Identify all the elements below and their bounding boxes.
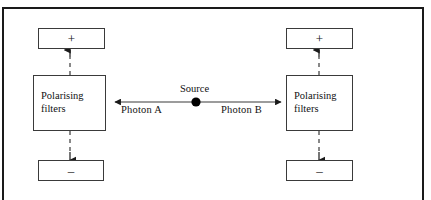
left-minus-label: – bbox=[68, 164, 75, 177]
right-filter-label-line2: filters bbox=[294, 103, 337, 116]
right-filter-label-group: Polarising filters bbox=[294, 90, 337, 116]
left-plus-detector-box[interactable]: + bbox=[38, 28, 105, 49]
left-filter-label-line1: Polarising bbox=[41, 90, 84, 103]
right-polarising-filter-box[interactable]: Polarising filters bbox=[286, 75, 353, 131]
left-plus-label: + bbox=[68, 32, 75, 45]
right-minus-detector-box[interactable]: – bbox=[286, 160, 353, 181]
left-minus-detector-box[interactable]: – bbox=[38, 160, 104, 181]
diagram-canvas: + Polarising filters – + Polarising filt… bbox=[0, 0, 431, 200]
photon-b-label: Photon B bbox=[221, 104, 262, 115]
left-filter-label-group: Polarising filters bbox=[41, 90, 84, 116]
source-label: Source bbox=[180, 83, 209, 94]
right-plus-detector-box[interactable]: + bbox=[286, 28, 353, 49]
left-polarising-filter-box[interactable]: Polarising filters bbox=[33, 75, 106, 131]
right-filter-label-line1: Polarising bbox=[294, 90, 337, 103]
left-filter-label-line2: filters bbox=[41, 103, 84, 116]
right-plus-label: + bbox=[316, 32, 323, 45]
photon-a-label: Photon A bbox=[121, 104, 162, 115]
right-minus-label: – bbox=[316, 164, 323, 177]
